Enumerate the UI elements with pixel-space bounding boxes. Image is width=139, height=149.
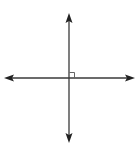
diagram-canvas	[0, 0, 139, 149]
perpendicular-lines-diagram	[0, 0, 139, 149]
right-angle-marker	[70, 73, 75, 78]
